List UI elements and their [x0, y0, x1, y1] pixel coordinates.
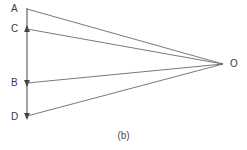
ray-b-to-o: [27, 64, 223, 83]
point-label-c: C: [11, 24, 18, 34]
point-label-o: O: [230, 59, 238, 69]
arrowhead-down-at-d: [24, 113, 30, 120]
arrowhead-down-at-b: [24, 80, 30, 87]
ray-c-to-o: [27, 29, 223, 64]
arrowhead-up-at-c: [24, 25, 30, 32]
figure-caption: (b): [0, 130, 247, 141]
ray-d-to-o: [27, 64, 223, 116]
diagram-canvas: [0, 0, 247, 150]
ray-a-to-o: [27, 9, 223, 64]
point-label-b: B: [11, 78, 18, 88]
point-label-d: D: [11, 112, 18, 122]
point-label-a: A: [11, 4, 18, 14]
figure-container: A C B D O (b): [0, 0, 247, 150]
